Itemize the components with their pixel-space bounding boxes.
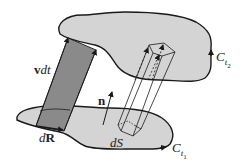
Ct1-direction-arrow	[160, 147, 166, 148]
label-n: n	[98, 94, 105, 107]
label-vdt: vdt	[34, 63, 51, 76]
label-dR: dR	[39, 131, 55, 144]
label-Ct1: Ct1	[172, 141, 187, 160]
label-Ct2: Ct2	[216, 50, 231, 69]
label-dS: dS	[110, 136, 123, 149]
